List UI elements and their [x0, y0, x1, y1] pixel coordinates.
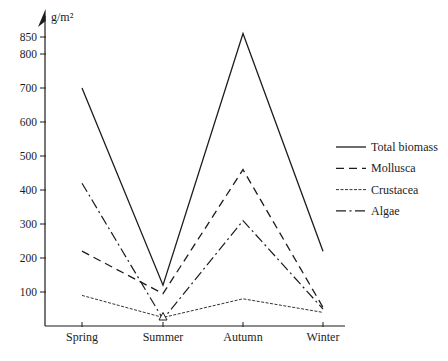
- y-tick-label: 300: [20, 218, 38, 230]
- legend-label-mollusca: Mollusca: [371, 161, 416, 175]
- x-category-label: Winter: [307, 330, 340, 344]
- y-tick-label: 850: [20, 31, 38, 43]
- y-tick-label: 200: [20, 252, 38, 264]
- y-tick-label: 700: [20, 82, 38, 94]
- series-line-algae: [82, 183, 323, 319]
- chart-container: g/m²100200300400500600700800850SpringSum…: [0, 0, 448, 361]
- x-category-label: Autumn: [223, 330, 262, 344]
- legend-label-algae: Algae: [371, 204, 400, 218]
- y-tick-label: 500: [20, 150, 38, 162]
- series-line-crustacea: [82, 295, 323, 317]
- y-axis-unit-label: g/m²: [51, 10, 74, 24]
- series-line-total-biomass: [82, 34, 323, 286]
- biomass-chart: g/m²100200300400500600700800850SpringSum…: [0, 0, 448, 361]
- y-tick-label: 600: [20, 116, 38, 128]
- y-tick-label: 800: [20, 48, 38, 60]
- y-tick-label: 100: [20, 286, 38, 298]
- x-category-label: Spring: [66, 330, 98, 344]
- legend-label-total-biomass: Total biomass: [371, 140, 438, 154]
- x-category-label: Summer: [143, 330, 184, 344]
- legend-label-crustacea: Crustacea: [371, 183, 419, 197]
- series-line-mollusca: [82, 170, 323, 308]
- y-tick-label: 400: [20, 184, 38, 196]
